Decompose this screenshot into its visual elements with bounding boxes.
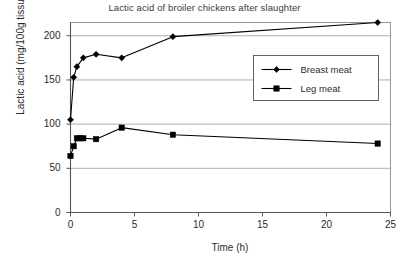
x-tick-label: 5 <box>123 219 147 230</box>
x-tick-label: 0 <box>59 219 83 230</box>
data-point-marker <box>375 19 381 25</box>
chart-figure: Lactic acid of broiler chickens after sl… <box>0 0 409 266</box>
data-point-marker <box>119 125 124 130</box>
data-point-marker <box>375 141 380 146</box>
data-point-marker <box>170 132 175 137</box>
x-tick-label: 10 <box>187 219 211 230</box>
x-tick-label: 25 <box>379 219 403 230</box>
y-tick-label: 150 <box>31 74 61 85</box>
data-point-marker <box>93 51 99 57</box>
plot-frame <box>71 23 391 213</box>
data-point-marker <box>71 144 76 149</box>
y-tick-label: 50 <box>31 162 61 173</box>
x-axis-label: Time (h) <box>70 242 390 253</box>
data-point-marker <box>67 117 73 123</box>
legend-marker-square-icon <box>274 86 279 91</box>
y-tick-label: 0 <box>31 207 61 218</box>
legend-label: Breast meat <box>301 64 353 75</box>
data-point-marker <box>93 136 98 141</box>
series-leg-meat <box>68 125 381 159</box>
x-tick-label: 20 <box>315 219 339 230</box>
data-point-marker <box>71 74 77 80</box>
data-point-marker <box>81 136 86 141</box>
data-point-marker <box>170 34 176 40</box>
x-tick-label: 15 <box>251 219 275 230</box>
data-point-marker <box>119 55 125 61</box>
legend: Breast meatLeg meat <box>254 56 379 101</box>
y-tick-label: 200 <box>31 30 61 41</box>
series-line <box>71 128 378 156</box>
y-tick-label: 100 <box>31 118 61 129</box>
data-point-marker <box>68 153 73 158</box>
legend-label: Leg meat <box>301 83 341 94</box>
